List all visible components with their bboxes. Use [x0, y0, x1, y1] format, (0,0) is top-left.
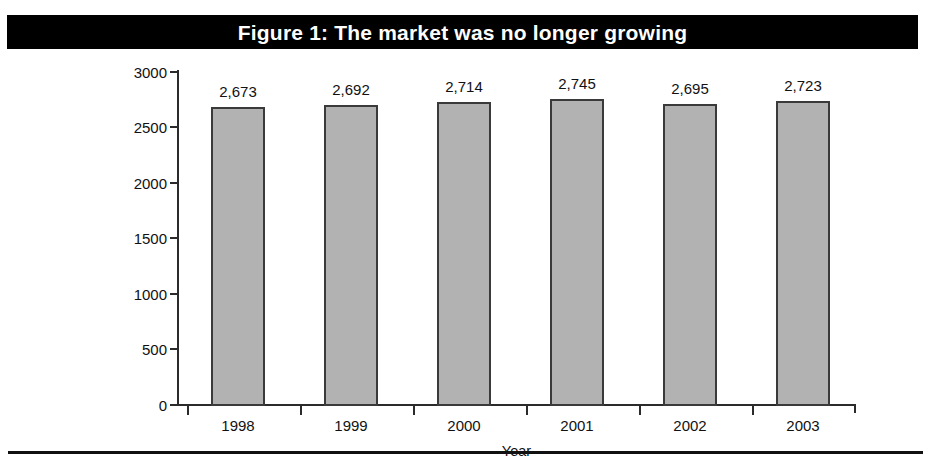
x-tick-label-2002: 2002 [650, 417, 730, 434]
x-tick-mark [526, 406, 528, 415]
y-tick-label: 2500 [107, 119, 167, 136]
bar-chart: Total tyres, exhausts and brakes market … [0, 55, 931, 430]
bar-value-label-2001: 2,745 [537, 75, 617, 92]
bar-1999[interactable] [324, 105, 378, 406]
bar-value-label-1998: 2,673 [198, 83, 278, 100]
bottom-divider [8, 451, 923, 454]
x-tick-label-2001: 2001 [537, 417, 617, 434]
bar-value-label-2002: 2,695 [650, 80, 730, 97]
x-tick-label-2003: 2003 [763, 417, 843, 434]
x-tick-mark [187, 406, 189, 415]
y-axis-tick-labels: 3000 2500 2000 1500 1000 500 0 [105, 55, 167, 415]
bar-value-label-1999: 2,692 [311, 81, 391, 98]
figure-container: Figure 1: The market was no longer growi… [0, 0, 931, 466]
y-tick-label: 1500 [107, 230, 167, 247]
figure-title: Figure 1: The market was no longer growi… [238, 22, 687, 43]
bar-value-label-2003: 2,723 [763, 77, 843, 94]
x-tick-label-2000: 2000 [424, 417, 504, 434]
bar-value-label-2000: 2,714 [424, 78, 504, 95]
y-tick-label: 500 [107, 341, 167, 358]
x-tick-mark [752, 406, 754, 415]
x-tick-mark [300, 406, 302, 415]
y-tick-label: 2000 [107, 175, 167, 192]
bar-2001[interactable] [550, 99, 604, 406]
x-tick-mark [413, 406, 415, 415]
x-tick-mark [639, 406, 641, 415]
x-tick-label-1999: 1999 [311, 417, 391, 434]
y-tick-label: 3000 [107, 64, 167, 81]
y-tick-label: 0 [107, 397, 167, 414]
x-tick-label-1998: 1998 [198, 417, 278, 434]
y-axis-title-wrapper: Total tyres, exhausts and brakes market … [52, 60, 92, 410]
bar-2003[interactable] [776, 101, 830, 406]
figure-title-banner: Figure 1: The market was no longer growi… [7, 15, 918, 49]
bar-2000[interactable] [437, 102, 491, 406]
bar-2002[interactable] [663, 104, 717, 406]
y-tick-label: 1000 [107, 286, 167, 303]
bar-1998[interactable] [211, 107, 265, 406]
bar-series [177, 70, 856, 406]
